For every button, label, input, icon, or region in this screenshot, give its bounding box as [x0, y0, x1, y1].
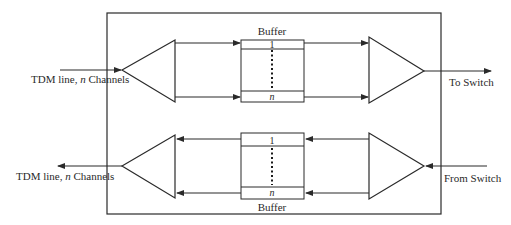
- bottom-buffer: 1 n: [241, 133, 304, 199]
- bottom-path: From Switch 1 n Buffer TDM line, n Chann…: [16, 133, 502, 213]
- multiplexer-icon: [122, 135, 175, 198]
- buffer-slot-n: n: [270, 187, 275, 198]
- multiplexer-icon: [369, 37, 424, 103]
- tdm-buffer-diagram: TDM line, n Channels Buffer 1 n To Switc…: [0, 0, 511, 225]
- to-switch-label: To Switch: [449, 76, 494, 88]
- demultiplexer-icon: [122, 40, 175, 102]
- buffer-slot-n: n: [270, 91, 275, 102]
- top-buffer-label: Buffer: [258, 25, 287, 37]
- demultiplexer-icon: [369, 133, 424, 199]
- top-buffer: 1 n: [241, 39, 304, 102]
- buffer-slot-1: 1: [270, 135, 275, 146]
- top-path: TDM line, n Channels Buffer 1 n To Switc…: [31, 25, 494, 103]
- buffer-slot-1: 1: [270, 39, 275, 50]
- bottom-buffer-label: Buffer: [258, 201, 287, 213]
- tdm-input-label: TDM line, n Channels: [31, 73, 129, 85]
- from-switch-label: From Switch: [444, 172, 502, 184]
- tdm-output-label: TDM line, n Channels: [16, 170, 114, 182]
